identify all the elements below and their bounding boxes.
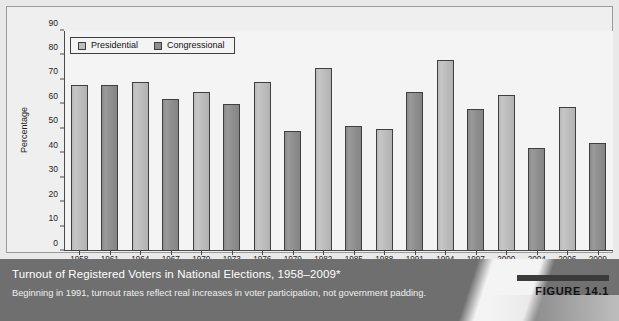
bar-slot xyxy=(217,31,248,251)
legend-item-presidential: Presidential xyxy=(78,41,138,50)
bar-slot xyxy=(308,31,339,251)
y-tick-label: 60 xyxy=(49,92,64,101)
figure-root: Percentage 0102030405060708090 195819611… xyxy=(0,0,619,321)
bar-1985[interactable] xyxy=(345,126,362,251)
bar-slot xyxy=(64,31,95,251)
bar-1988[interactable] xyxy=(376,129,393,251)
bar-1967[interactable] xyxy=(162,99,179,251)
bar-1958[interactable] xyxy=(71,85,88,251)
bar-slot xyxy=(491,31,522,251)
bar-1997[interactable] xyxy=(467,109,484,251)
bar-1973[interactable] xyxy=(223,104,240,251)
bar-1991[interactable] xyxy=(406,92,423,251)
bar-2009[interactable] xyxy=(589,143,606,251)
bar-1979[interactable] xyxy=(284,131,301,251)
y-tick-label: 90 xyxy=(49,18,64,27)
legend-item-congressional: Congressional xyxy=(154,41,225,50)
legend-label-congressional: Congressional xyxy=(167,41,225,50)
bar-slot xyxy=(552,31,583,251)
bar-slot xyxy=(339,31,370,251)
y-tick-label: 40 xyxy=(49,140,64,149)
bar-slot xyxy=(125,31,156,251)
bar-slot xyxy=(583,31,614,251)
bar-slot xyxy=(95,31,126,251)
legend-swatch-presidential-icon xyxy=(78,42,86,50)
y-tick-label: 70 xyxy=(49,67,64,76)
chart-frame: Percentage 0102030405060708090 195819611… xyxy=(6,6,613,253)
bar-1961[interactable] xyxy=(101,85,118,251)
figure-caption-note: Beginning in 1991, turnout rates reflect… xyxy=(12,287,432,300)
y-tick-label: 50 xyxy=(49,116,64,125)
bar-1970[interactable] xyxy=(193,92,210,251)
bar-1982[interactable] xyxy=(315,68,332,251)
legend-label-presidential: Presidential xyxy=(91,41,138,50)
bar-1994[interactable] xyxy=(437,60,454,251)
bar-series-group xyxy=(64,31,613,251)
bar-slot xyxy=(156,31,187,251)
y-tick-label: 20 xyxy=(49,189,64,198)
y-tick-label: 80 xyxy=(49,43,64,52)
bar-slot xyxy=(522,31,553,251)
bar-slot xyxy=(461,31,492,251)
bar-slot xyxy=(186,31,217,251)
figure-number-label: FIGURE 14.1 xyxy=(517,285,609,297)
bar-slot xyxy=(247,31,278,251)
bar-slot xyxy=(278,31,309,251)
figure-number-block: FIGURE 14.1 xyxy=(517,275,609,297)
bar-slot xyxy=(369,31,400,251)
bar-1964[interactable] xyxy=(132,82,149,251)
bar-2000[interactable] xyxy=(498,95,515,251)
legend-swatch-congressional-icon xyxy=(154,42,162,50)
bar-slot xyxy=(430,31,461,251)
bar-2006[interactable] xyxy=(559,107,576,251)
bar-2004[interactable] xyxy=(528,148,545,251)
plot-area: 0102030405060708090 xyxy=(64,31,613,251)
figure-caption-title: Turnout of Registered Voters in National… xyxy=(12,268,341,280)
y-tick-label: 30 xyxy=(49,165,64,174)
bar-slot xyxy=(400,31,431,251)
y-axis-label: Percentage xyxy=(19,106,29,152)
bar-1976[interactable] xyxy=(254,82,271,251)
y-tick-label: 0 xyxy=(53,238,64,247)
y-tick-label: 10 xyxy=(49,214,64,223)
chart-panel: Percentage 0102030405060708090 195819611… xyxy=(0,0,619,259)
figure-caption-bar: Turnout of Registered Voters in National… xyxy=(0,259,619,321)
figure-rule-divider xyxy=(517,275,609,281)
chart-legend: Presidential Congressional xyxy=(70,37,235,54)
